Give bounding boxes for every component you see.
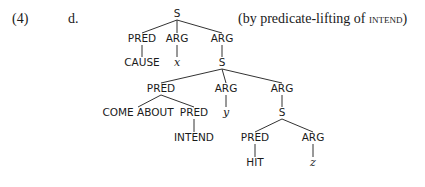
- tree-node-s: S: [279, 106, 286, 118]
- tree-node-z: z: [309, 156, 316, 169]
- tree-node-hit: HIT: [246, 156, 264, 168]
- tree-nodes: SPREDARGARGCAUSExSPREDARGARGCOME ABOUTPR…: [102, 7, 324, 169]
- tree-node-arg: ARG: [302, 131, 325, 143]
- tree-node-s: S: [219, 56, 226, 68]
- tree-node-pred: PRED: [147, 82, 175, 94]
- tree-node-s: S: [174, 7, 181, 19]
- tree-node-arg: ARG: [271, 82, 294, 94]
- tree-node-come-about: COME ABOUT: [102, 106, 174, 118]
- tree-node-pred: PRED: [180, 106, 208, 118]
- tree-node-x: x: [174, 56, 181, 69]
- tree-edge: [161, 69, 222, 83]
- tree-node-intend: INTEND: [174, 131, 214, 143]
- tree-edge: [222, 69, 282, 83]
- tree-node-arg: ARG: [211, 32, 234, 44]
- tree-node-pred: PRED: [241, 131, 269, 143]
- tree-edge: [222, 69, 226, 83]
- tree-node-cause: CAUSE: [124, 56, 160, 68]
- tree-node-arg: ARG: [215, 82, 238, 94]
- syntax-tree-diagram: SPREDARGARGCAUSExSPREDARGARGCOME ABOUTPR…: [0, 0, 425, 187]
- tree-node-pred: PRED: [128, 32, 156, 44]
- tree-node-arg: ARG: [166, 32, 189, 44]
- tree-node-y: y: [222, 106, 230, 119]
